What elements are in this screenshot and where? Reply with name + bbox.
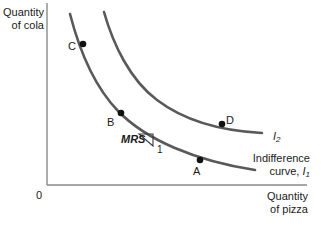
curve-label-i1-subscript: 1 (306, 170, 310, 179)
point-label-a: A (193, 166, 200, 177)
indifference-curve-figure: Quantity of cola Quantity of pizza 0 C B… (0, 0, 321, 230)
point-c-marker (80, 41, 87, 48)
curve-label-i2-subscript: 2 (276, 135, 280, 144)
point-label-c: C (68, 41, 76, 52)
curve-label-i1: Indifferencecurve, I1 (210, 152, 310, 181)
curve-label-i1-line1: Indifference (253, 152, 310, 164)
point-label-d: D (226, 115, 234, 126)
point-d-marker (219, 121, 226, 128)
mrs-run-label: 1 (157, 144, 163, 157)
curve-label-i1-line2-prefix: curve, (269, 165, 302, 177)
x-axis-title: Quantity of pizza (214, 190, 308, 215)
y-axis-title: Quantity of cola (0, 6, 44, 31)
mrs-label: MRS (121, 133, 145, 146)
curve-label-i2: I2 (273, 130, 281, 147)
point-label-b: B (107, 117, 114, 128)
point-b-marker (118, 110, 125, 117)
indifference-curve-i2 (104, 12, 262, 133)
point-a-marker (197, 157, 204, 164)
origin-label: 0 (33, 189, 45, 202)
